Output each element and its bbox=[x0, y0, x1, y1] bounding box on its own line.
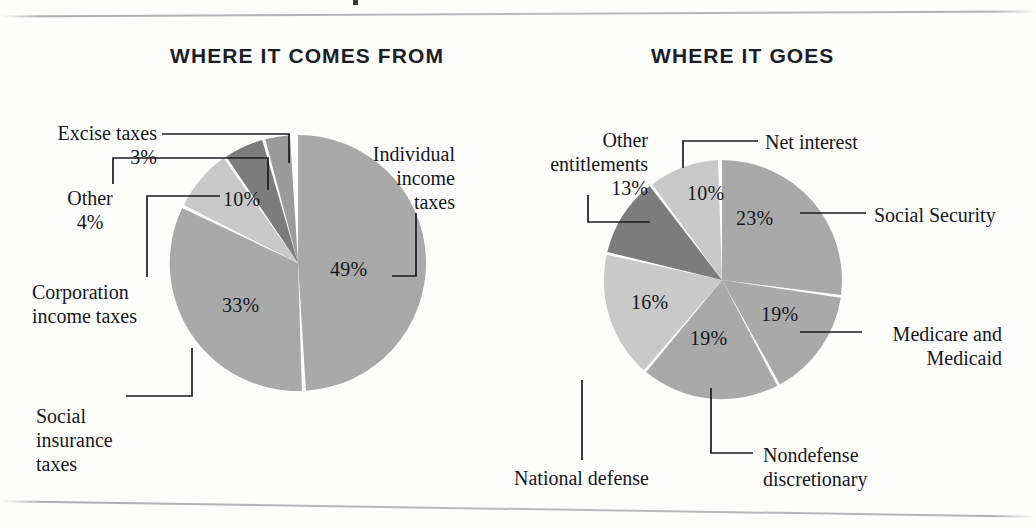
pie-value-label-social-insurance: 33% bbox=[222, 294, 259, 317]
callout-other-entitlements: Other entitlements 13% bbox=[508, 128, 648, 200]
pie-value-label-individual: 49% bbox=[330, 258, 367, 281]
callout-other: Other 4% bbox=[46, 186, 134, 234]
callout-individual-income-taxes: Individual income taxes bbox=[352, 142, 455, 214]
budget-pie-figure: WHERE IT COMES FROM WHERE IT GOES 49% 33… bbox=[0, 0, 1036, 529]
callout-social-security: Social Security bbox=[874, 203, 1034, 227]
chart-title-where-it-comes-from: WHERE IT COMES FROM bbox=[170, 44, 444, 68]
scan-artifact-speck bbox=[353, 0, 358, 5]
callout-corporation-income-taxes: Corporation income taxes bbox=[32, 280, 192, 328]
callout-medicare-medicaid: Medicare and Medicaid bbox=[870, 322, 1002, 370]
pie-value-label-national-defense: 16% bbox=[631, 291, 668, 314]
pie-value-label-corporation: 10% bbox=[223, 188, 260, 211]
callout-nondefense-discretionary: Nondefense discretionary bbox=[763, 443, 913, 491]
page-rule-top bbox=[0, 10, 1036, 17]
pie-value-label-net-interest: 10% bbox=[687, 182, 724, 205]
callout-national-defense: National defense bbox=[514, 466, 704, 490]
callout-excise-taxes: Excise taxes 3% bbox=[24, 121, 157, 169]
chart-title-where-it-goes: WHERE IT GOES bbox=[651, 44, 834, 68]
pie-value-label-social-security: 23% bbox=[736, 207, 773, 230]
pie-value-label-nondefense: 19% bbox=[690, 327, 727, 350]
callout-net-interest: Net interest bbox=[765, 130, 945, 154]
page-rule-bottom bbox=[0, 500, 1036, 517]
pie-value-label-medicare: 19% bbox=[761, 303, 798, 326]
callout-social-insurance-taxes: Social insurance taxes bbox=[36, 404, 176, 476]
